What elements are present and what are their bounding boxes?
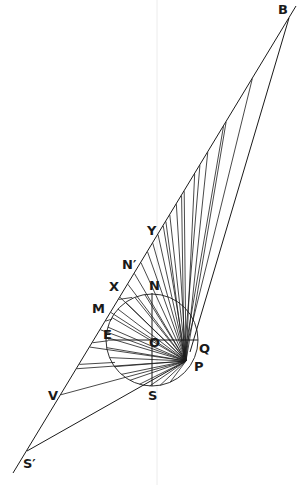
label-m: M	[92, 302, 105, 315]
envelope-ray	[184, 79, 252, 357]
label-x: X	[109, 280, 119, 293]
label-o: O	[149, 336, 160, 349]
hatch-line	[79, 362, 115, 364]
label-n-prime: N′	[122, 258, 136, 271]
geometric-diagram	[0, 0, 305, 485]
envelope-ray	[184, 126, 224, 357]
line-b-p	[190, 18, 289, 352]
label-q: Q	[199, 342, 210, 355]
label-e: E	[103, 328, 112, 341]
label-y: Y	[147, 224, 156, 237]
label-s-prime: S′	[23, 457, 36, 470]
label-b: B	[278, 3, 288, 16]
circle-ray	[108, 327, 186, 361]
line-sprime-p	[27, 361, 186, 451]
label-v: V	[48, 389, 58, 402]
label-p: P	[194, 360, 204, 373]
label-n: N	[149, 279, 160, 292]
label-s: S	[148, 389, 157, 402]
